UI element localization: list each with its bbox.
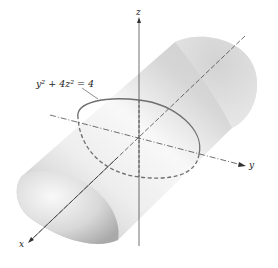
- z-axis-label: z: [135, 7, 141, 17]
- elliptic-cylinder-diagram: y² + 4z² = 4 z y x: [0, 0, 278, 268]
- cylinder-surface: [17, 37, 257, 244]
- equation-leader-line: [82, 88, 98, 99]
- y-arrow-icon: [238, 162, 246, 167]
- equation-label: y² + 4z² = 4: [35, 78, 94, 89]
- y-axis-label: y: [248, 160, 255, 170]
- z-arrow-icon: [137, 17, 141, 23]
- x-axis-label: x: [19, 239, 24, 249]
